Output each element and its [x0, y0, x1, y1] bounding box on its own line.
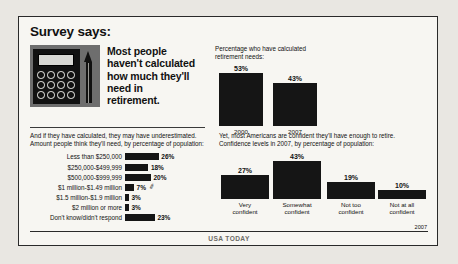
chart-caption-line-1: Yet, most Americans are confident they'l…	[219, 132, 429, 140]
bar-value-label: 18%	[151, 164, 164, 171]
bar-value-label: 53%	[219, 65, 263, 72]
bar-row: $1 million-$1.49 million 7% ✐	[30, 183, 210, 192]
bar-category-label: Not at all confident	[378, 201, 426, 217]
bar	[125, 204, 129, 211]
bar	[273, 83, 317, 126]
footer-divider	[30, 231, 428, 232]
bar-value-label: 43%	[273, 153, 321, 160]
chart-year-note: 2007	[415, 224, 427, 230]
bar-value-label: 3%	[131, 194, 140, 201]
bar-category-label: Somewhat confident	[273, 201, 321, 217]
bar-row: Less than $250,000 26%	[30, 152, 210, 161]
bar	[219, 73, 263, 126]
bar-group: 53% 2000	[219, 65, 263, 135]
bar-category-label: $2 million or more	[30, 204, 125, 211]
bar-category-label: Very confident	[221, 201, 269, 217]
bar	[125, 153, 159, 160]
chart-caption-line-2: Confidence levels in 2007, by percentage…	[219, 140, 429, 148]
bar-value-label: 19%	[327, 174, 375, 181]
bar	[125, 164, 148, 171]
bar-value-label: 3%	[131, 204, 140, 211]
bar-group: 43% 2007	[273, 75, 317, 135]
chart-amount-people-think-theyll-need: And if they have calculated, they may ha…	[30, 132, 210, 232]
bar-category-label: Don't know/didn't respond	[30, 214, 125, 221]
bar-category-label: Not too confident	[327, 201, 375, 217]
bar-value-label: 23%	[157, 214, 170, 221]
bar-value-label: 27%	[221, 167, 269, 174]
chart-caption: Percentage who have calculated retiremen…	[215, 45, 335, 61]
page-title: Survey says:	[30, 24, 111, 39]
chart-caption-line-2: Amount people think they'll need, by per…	[30, 140, 210, 148]
bar-group: 43% Somewhat confident	[273, 153, 321, 217]
bar-value-label: 7%	[137, 184, 146, 191]
divider	[30, 127, 205, 128]
bar-group: 19% Not too confident	[327, 174, 375, 217]
chart-caption: And if they have calculated, they may ha…	[30, 132, 210, 148]
calculator-photo	[30, 45, 100, 107]
bar	[221, 175, 269, 199]
calculator-display	[38, 54, 74, 66]
calculator-keypad	[37, 71, 77, 101]
bar-row: Don't know/didn't respond 23%	[30, 213, 210, 222]
bar	[378, 190, 426, 199]
bar	[125, 184, 134, 191]
bar-row: $500,000-$999,999 20%	[30, 173, 210, 182]
bar	[327, 182, 375, 199]
pointer-annotation-icon: ✐	[148, 183, 156, 193]
brand-wordmark: USA TODAY	[19, 235, 439, 242]
bar-value-label: 10%	[378, 182, 426, 189]
bar-value-label: 43%	[273, 75, 317, 82]
chart-plot-area: 53% 2000 43% 2007	[219, 63, 331, 135]
bar-value-label: 26%	[161, 153, 174, 160]
chart-plot-area: Less than $250,000 26% $250,000-$499,999…	[30, 152, 210, 222]
chart-calculated-retirement-needs: Percentage who have calculated retiremen…	[215, 45, 335, 137]
bar-row: $250,000-$499,999 18%	[30, 163, 210, 172]
pencil-icon	[84, 51, 93, 103]
bar-group: 10% Not at all confident	[378, 182, 426, 217]
bar	[125, 214, 155, 221]
calculator-icon	[33, 49, 80, 104]
chart-caption-line-1: And if they have calculated, they may ha…	[30, 132, 210, 140]
infographic-frame: Survey says: Most	[18, 16, 438, 246]
bar-row: $1.5 million-$1.9 million 3%	[30, 193, 210, 202]
bar-category-label: $250,000-$499,999	[30, 164, 125, 171]
headline: Most people haven't calculated how much …	[107, 45, 195, 106]
bar-category-label: $1.5 million-$1.9 million	[30, 194, 125, 201]
bar-category-label: $1 million-$1.49 million	[30, 184, 125, 191]
bar	[125, 194, 129, 201]
chart-caption: Yet, most Americans are confident they'l…	[219, 132, 429, 148]
bar-category-label: Less than $250,000	[30, 153, 125, 160]
bar-category-label: $500,000-$999,999	[30, 174, 125, 181]
bar-group: 27% Very confident	[221, 167, 269, 217]
bar	[273, 161, 321, 199]
bar-value-label: 20%	[154, 174, 167, 181]
chart-plot-area: 27% Very confident 43% Somewhat confiden…	[221, 154, 427, 216]
bar	[125, 174, 151, 181]
chart-confidence-levels-2007: Yet, most Americans are confident they'l…	[219, 132, 429, 232]
bar-row: $2 million or more 3%	[30, 203, 210, 212]
